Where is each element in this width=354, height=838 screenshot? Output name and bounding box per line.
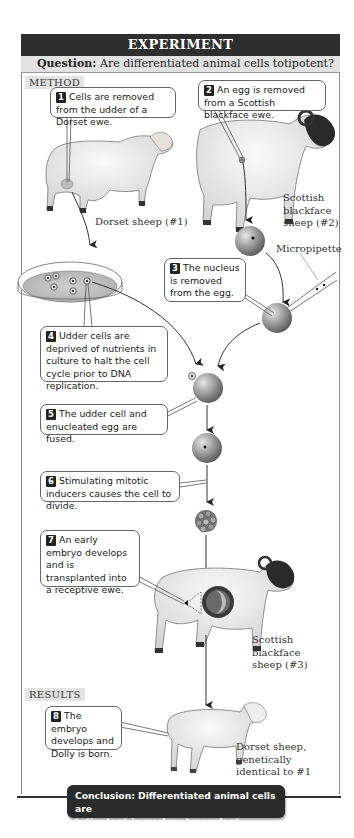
step-7-text: An early embryo develops and is transpla… xyxy=(46,534,127,595)
fused-cell-icon xyxy=(193,373,223,403)
step-number-badge: 2 xyxy=(204,85,214,96)
step-5-callout: 5The udder cell and enucleated egg are f… xyxy=(40,404,168,435)
results-section-label: RESULTS xyxy=(25,688,85,701)
step-4-text: Udder cells are deprived of nutrients in… xyxy=(46,330,156,391)
step-number-badge: 6 xyxy=(46,476,56,487)
egg-cell-icon xyxy=(235,226,265,256)
step-7-callout: 7An early embryo develops and is transpl… xyxy=(40,530,140,587)
step-2-callout: 2An egg is removed from a Scottish black… xyxy=(198,80,326,111)
petri-dish-icon xyxy=(18,262,122,302)
step-number-badge: 8 xyxy=(51,711,61,722)
label-line: Scottish xyxy=(283,192,339,205)
step-4-callout: 4Udder cells are deprived of nutrients i… xyxy=(40,326,168,382)
enucleated-egg-icon xyxy=(262,303,292,333)
step-number-badge: 7 xyxy=(46,535,56,546)
step-6-callout: 6Stimulating mitotic inducers causes the… xyxy=(40,471,180,502)
step-1-callout: 1Cells are removed from the udder of a D… xyxy=(50,87,176,118)
dorset-sheep-1-icon xyxy=(46,132,173,213)
conclusion-line-2: totipotent in nuclear transplant experim… xyxy=(75,815,277,838)
label-line: Dorset sheep, xyxy=(236,741,311,754)
label-line: sheep (#2) xyxy=(283,217,339,230)
step-8-callout: 8The embryo develops and Dolly is born. xyxy=(45,706,122,750)
dorset-sheep-1-label: Dorset sheep (#1) xyxy=(95,216,188,229)
label-line: identical to #1 xyxy=(236,766,311,779)
single-cell-icon xyxy=(192,433,222,463)
label-line: sheep (#3) xyxy=(252,659,308,672)
step-number-badge: 4 xyxy=(46,331,56,342)
label-line: blackface xyxy=(252,647,308,660)
conclusion-line-1: Conclusion: Differentiated animal cells … xyxy=(75,789,277,815)
step-3-text: The nucleus is removed from the egg. xyxy=(170,262,240,298)
scottish-sheep-3-label: Scottish blackface sheep (#3) xyxy=(252,634,308,672)
step-3-callout: 3The nucleus is removed from the egg. xyxy=(164,258,246,302)
step-number-badge: 3 xyxy=(170,263,180,274)
dolly-label: Dorset sheep, genetically identical to #… xyxy=(236,741,311,779)
label-line: genetically xyxy=(236,754,311,767)
early-embryo-icon xyxy=(195,510,217,532)
conclusion-box: Conclusion: Differentiated animal cells … xyxy=(67,785,285,818)
label-line: blackface xyxy=(283,205,339,218)
step-number-badge: 1 xyxy=(56,92,66,103)
step-number-badge: 5 xyxy=(46,409,56,420)
scottish-sheep-2-label: Scottish blackface sheep (#2) xyxy=(283,192,339,230)
label-line: Scottish xyxy=(252,634,308,647)
micropipette-label: Micropipette xyxy=(276,243,342,256)
